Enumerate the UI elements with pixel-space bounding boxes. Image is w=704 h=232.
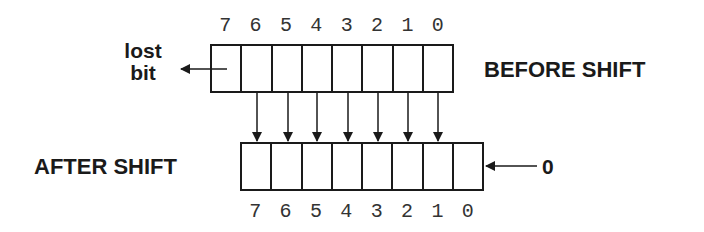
after-shift-label: AFTER SHIFT <box>34 155 177 179</box>
lost-bit-label-line1: lost <box>118 40 168 62</box>
lost-bit-label: lost bit <box>118 40 168 84</box>
shift-in-value: 0 <box>542 155 554 179</box>
before-shift-label: BEFORE SHIFT <box>484 58 645 82</box>
arrows-layer <box>0 0 704 232</box>
lost-bit-label-line2: bit <box>118 62 168 84</box>
